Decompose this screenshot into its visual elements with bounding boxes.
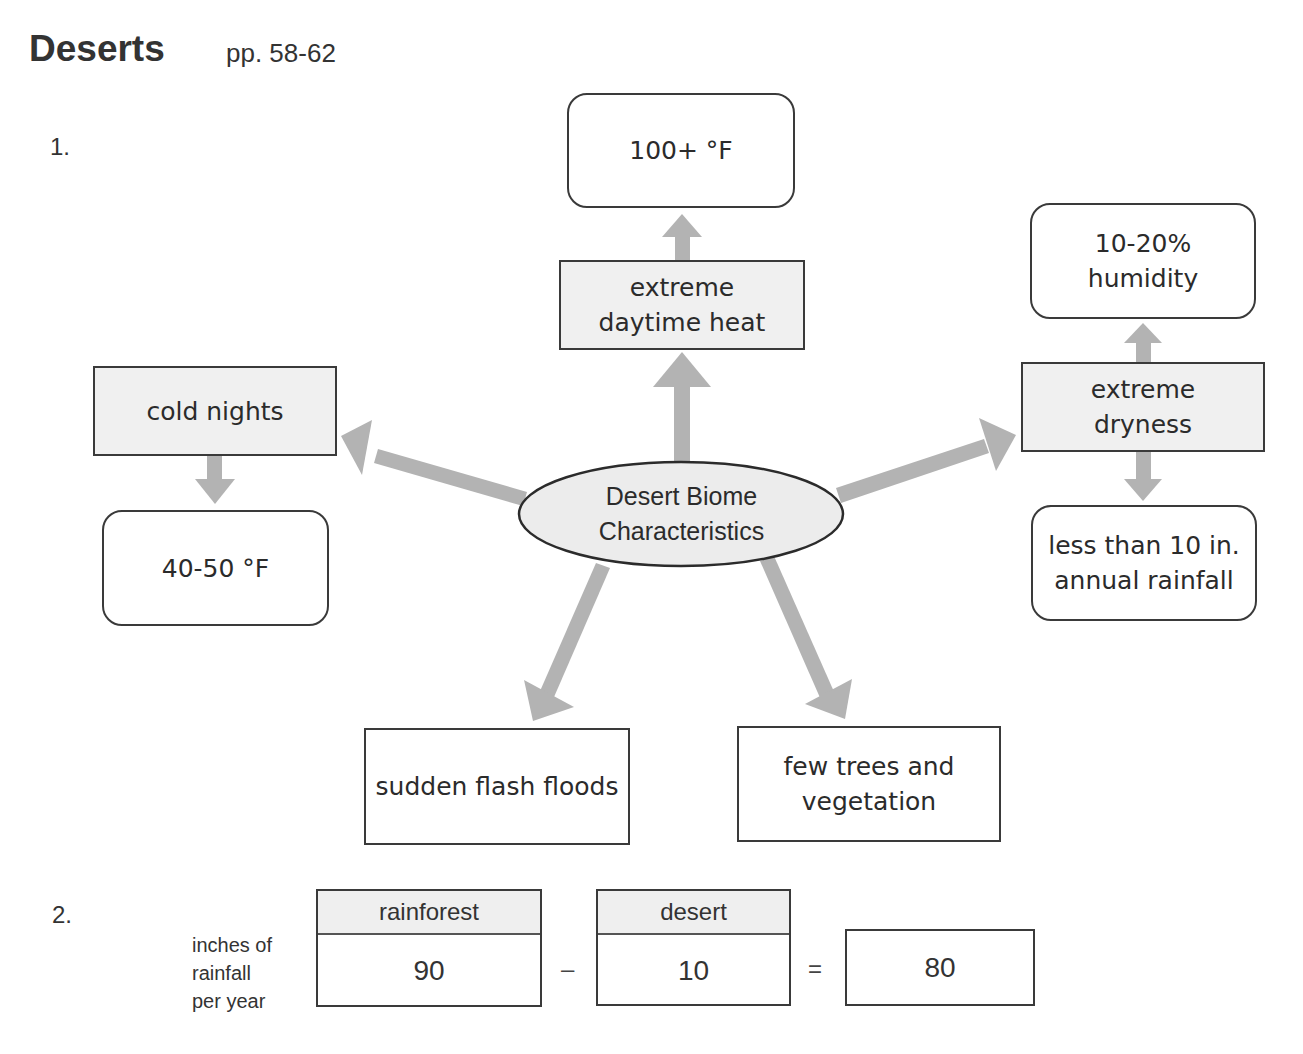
question-2-number: 2. — [52, 901, 72, 929]
minus-operator: – — [561, 955, 574, 983]
result-box: 80 — [845, 929, 1035, 1006]
center-concept: Desert Biome Characteristics — [519, 461, 844, 567]
arrow-down-to-40-50f-icon — [195, 455, 235, 504]
arrow-up-to-heat-icon — [653, 352, 711, 465]
vegetation-line2: vegetation — [802, 784, 936, 819]
vegetation-box: few trees and vegetation — [737, 726, 1001, 842]
rainforest-value: 90 — [318, 935, 540, 1007]
desert-box: desert 10 — [596, 889, 791, 1006]
vegetation-line1: few trees and — [784, 749, 955, 784]
rainfall-units-label: inches of rainfall per year — [192, 931, 272, 1015]
humidity-line2: humidity — [1088, 261, 1198, 296]
cold-nights-label-box: cold nights — [93, 366, 337, 456]
heat-label-box: extreme daytime heat — [559, 260, 805, 350]
heat-label-line1: extreme — [630, 270, 734, 305]
result-value: 80 — [924, 952, 955, 984]
heat-detail-text: 100+ °F — [629, 133, 733, 168]
cold-detail-box: 40-50 °F — [102, 510, 329, 626]
rainforest-header: rainforest — [318, 891, 540, 935]
units-line2: rainfall — [192, 959, 272, 987]
heat-label-line2: daytime heat — [599, 305, 766, 340]
rainfall-line1: less than 10 in. — [1048, 528, 1240, 563]
arrow-down-right-to-vegetation-icon — [760, 556, 852, 719]
floods-box: sudden flash floods — [364, 728, 630, 845]
equals-operator: = — [808, 955, 822, 983]
units-line1: inches of — [192, 931, 272, 959]
rainforest-box: rainforest 90 — [316, 889, 542, 1007]
rainfall-line2: annual rainfall — [1054, 563, 1233, 598]
dryness-label-line1: extreme — [1091, 372, 1195, 407]
rainfall-detail-box: less than 10 in. annual rainfall — [1031, 505, 1257, 621]
center-concept-line2: Characteristics — [599, 514, 764, 549]
arrow-up-to-humidity-icon — [1124, 323, 1162, 364]
arrow-left-to-cold-nights-icon — [341, 420, 527, 506]
desert-value: 10 — [598, 935, 789, 1006]
arrow-right-to-dryness-icon — [836, 418, 1016, 503]
dryness-label-line2: dryness — [1094, 407, 1192, 442]
arrow-down-to-rainfall-icon — [1124, 451, 1162, 501]
arrow-down-left-to-floods-icon — [524, 563, 610, 721]
dryness-label-box: extreme dryness — [1021, 362, 1265, 452]
center-concept-line1: Desert Biome — [606, 479, 757, 514]
humidity-detail-box: 10-20% humidity — [1030, 203, 1256, 319]
desert-header: desert — [598, 891, 789, 935]
arrow-up-to-100f-icon — [662, 214, 702, 262]
humidity-line1: 10-20% — [1095, 226, 1191, 261]
floods-label: sudden flash floods — [376, 769, 619, 804]
heat-detail-box: 100+ °F — [567, 93, 795, 208]
cold-nights-label: cold nights — [146, 394, 283, 429]
cold-detail-text: 40-50 °F — [162, 551, 269, 586]
units-line3: per year — [192, 987, 272, 1015]
